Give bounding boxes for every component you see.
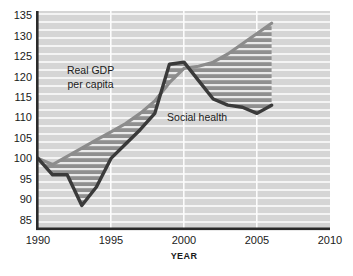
annotation-1: per capita xyxy=(67,78,113,90)
annotation-0: Real GDP xyxy=(67,64,114,76)
x-tick-1990: 1990 xyxy=(26,234,50,246)
x-tick-2005: 2005 xyxy=(245,234,269,246)
x-tick-1995: 1995 xyxy=(99,234,123,246)
x-axis-title: YEAR xyxy=(171,251,198,261)
x-axis xyxy=(36,228,330,231)
x-tick-2000: 2000 xyxy=(172,234,196,246)
line-chart: 859095100105110115120125130135 199019952… xyxy=(0,0,353,276)
y-tick-90: 90 xyxy=(20,193,32,205)
y-tick-95: 95 xyxy=(20,173,32,185)
x-tick-2010: 2010 xyxy=(318,234,342,246)
y-tick-105: 105 xyxy=(14,132,32,144)
annotation-2: Social health xyxy=(167,111,227,123)
x-axis-tick-labels: 19901995200020052010 xyxy=(26,234,342,246)
y-tick-110: 110 xyxy=(14,111,32,123)
y-axis xyxy=(36,11,39,230)
y-tick-130: 130 xyxy=(14,30,32,42)
y-axis-tick-labels: 859095100105110115120125130135 xyxy=(14,9,32,226)
y-tick-115: 115 xyxy=(14,91,32,103)
y-tick-120: 120 xyxy=(14,71,32,83)
y-tick-125: 125 xyxy=(14,50,32,62)
y-tick-100: 100 xyxy=(14,152,32,164)
y-tick-135: 135 xyxy=(14,9,32,21)
y-tick-85: 85 xyxy=(20,214,32,226)
chart-container: 859095100105110115120125130135 199019952… xyxy=(0,0,353,276)
